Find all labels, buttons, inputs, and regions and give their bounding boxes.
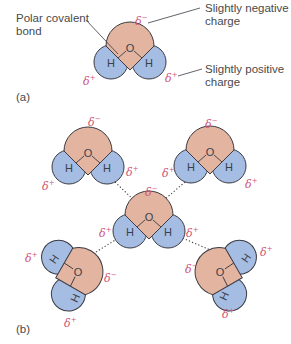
positive-pointer-line (178, 69, 202, 76)
hydrogen-label: H (107, 57, 115, 69)
hydrogen-label: H (103, 162, 111, 174)
oxygen-label: O (206, 146, 215, 158)
hydrogen-label: H (225, 161, 233, 173)
hydrogen-label: H (65, 162, 73, 174)
delta-plus: δ+ (222, 307, 235, 321)
oxygen-label: O (145, 211, 154, 223)
oxygen-label: O (126, 42, 135, 54)
delta-plus: δ+ (25, 251, 38, 265)
delta-plus-a-left: δ+ (83, 74, 96, 88)
hydrogen-label: H (164, 226, 172, 238)
panel-b-label: (b) (16, 323, 30, 335)
molecule-center: O H H (113, 191, 185, 248)
delta-plus: δ+ (260, 245, 273, 259)
delta-minus: δ− (104, 271, 117, 285)
negative-pointer-line (148, 8, 200, 23)
delta-plus: δ+ (42, 179, 55, 193)
slightly-negative-charge-label: Slightly negative charge (205, 2, 291, 27)
molecule-upper-left: O H H (52, 127, 124, 184)
hydrogen-label: H (126, 226, 134, 238)
molecule-upper-right: O H H (174, 126, 246, 183)
panel-a-label: (a) (16, 91, 30, 103)
oxygen-label: O (84, 147, 93, 159)
molecule-a: O H H (94, 22, 166, 79)
delta-minus-a: δ− (135, 14, 148, 28)
delta-plus: δ+ (186, 226, 199, 240)
delta-plus: δ+ (64, 316, 77, 330)
delta-plus: δ+ (126, 165, 139, 179)
water-hydrogen-bond-diagram: O H H δ− δ+ δ+ Polar covalent bond Sligh… (0, 0, 291, 344)
slightly-positive-charge-label: Slightly positive charge (205, 63, 287, 88)
delta-plus: δ+ (99, 226, 112, 240)
delta-plus: δ+ (245, 177, 258, 191)
oxygen-label: O (74, 266, 83, 278)
hydrogen-label: H (145, 57, 153, 69)
delta-plus-a-right: δ+ (165, 71, 178, 85)
polar-covalent-bond-label: Polar covalent bond (16, 12, 92, 37)
oxygen-label: O (216, 266, 225, 278)
delta-minus: δ− (88, 115, 101, 129)
hydrogen-label: H (187, 161, 195, 173)
delta-plus: δ+ (162, 166, 175, 180)
